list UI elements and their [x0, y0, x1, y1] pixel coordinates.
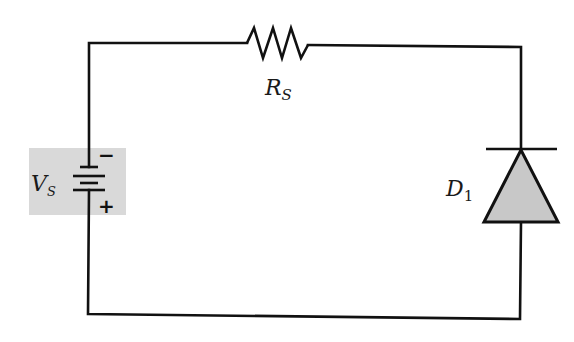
minus-sign: −	[98, 143, 115, 167]
wire-bottom	[88, 190, 521, 319]
plus-sign: +	[98, 194, 115, 218]
diode-icon	[484, 149, 558, 222]
resistor-icon	[247, 28, 308, 58]
resistor-label: RS	[264, 75, 292, 104]
circuit-diagram: VS − + RS D1	[0, 0, 574, 342]
diode-label: D1	[445, 176, 473, 205]
wire-top-right	[308, 45, 521, 149]
